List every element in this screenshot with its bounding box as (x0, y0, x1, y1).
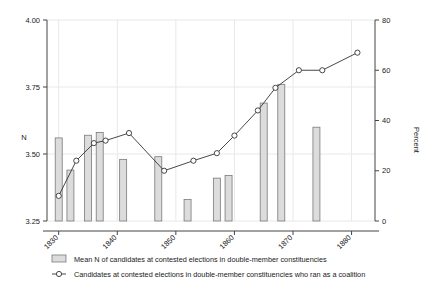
x-tick-label: 1830 (42, 233, 60, 251)
bar (278, 84, 285, 221)
y2-tick-label: 20 (382, 166, 390, 175)
axes (43, 20, 379, 231)
bar (155, 157, 162, 221)
legend-label-line: Candidates at contested elections in dou… (74, 270, 365, 279)
line-marker (296, 68, 301, 73)
bar (184, 200, 191, 221)
line-marker (74, 158, 79, 163)
x-tick-label: 1880 (335, 233, 353, 251)
line-marker (126, 130, 131, 135)
bar (260, 103, 267, 221)
y2-tick-label: 0 (382, 217, 386, 226)
y-tick-label: 4.00 (25, 16, 40, 25)
line-marker (103, 138, 108, 143)
y2-tick-label: 40 (382, 116, 390, 125)
line-marker (320, 68, 325, 73)
line-marker (355, 50, 360, 55)
line-marker (56, 193, 61, 198)
line-marker (273, 85, 278, 90)
chart-figure: 3.253.503.754.00 020406080 1830184018501… (0, 0, 434, 290)
x-tick-label: 1870 (276, 233, 294, 251)
chart-svg: 3.253.503.754.00 020406080 1830184018501… (0, 0, 434, 290)
y-tick-label: 3.50 (25, 150, 40, 159)
y-axis-title: N (21, 133, 26, 142)
y2-tick-label: 80 (382, 16, 390, 25)
bar (225, 175, 232, 221)
line-marker (91, 141, 96, 146)
line-marker (162, 168, 167, 173)
legend-label-bar: Mean N of candidates at contested electi… (74, 255, 327, 264)
bar (120, 159, 127, 221)
y-tick-label: 3.25 (25, 217, 40, 226)
line-marker (232, 133, 237, 138)
bar (213, 178, 220, 221)
bar (96, 133, 103, 221)
bar (55, 138, 62, 221)
y2-axis-title: Percent (412, 127, 421, 154)
bar-series (55, 84, 320, 221)
x-tick-label: 1850 (159, 233, 177, 251)
y-tick-label: 3.75 (25, 83, 40, 92)
bar (313, 127, 320, 221)
line-marker (214, 151, 219, 156)
line-marker (255, 108, 260, 113)
y2-tick-label: 60 (382, 66, 390, 75)
x-tick-label: 1860 (218, 233, 236, 251)
x-tick-label: 1840 (101, 233, 119, 251)
right-axis-ticks: 020406080 (375, 16, 390, 226)
legend-swatch-bar (52, 255, 66, 262)
legend: Mean N of candidates at contested electi… (52, 255, 365, 279)
bar (85, 135, 92, 221)
left-axis-ticks: 3.253.503.754.00 (25, 16, 47, 226)
line-marker (191, 158, 196, 163)
legend-marker-line (52, 271, 66, 276)
x-axis-ticks: 183018401850186018701880 (42, 231, 353, 251)
